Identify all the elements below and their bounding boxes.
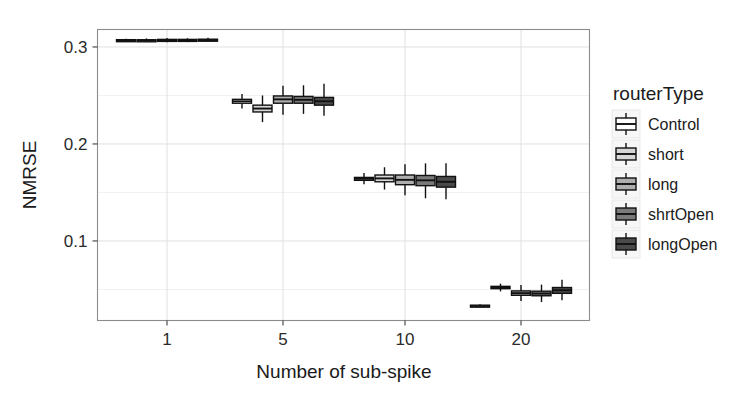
legend-item-label: long	[648, 176, 678, 193]
legend-title: routerType	[613, 83, 704, 104]
legend-item-label: longOpen	[648, 236, 717, 253]
legend-item-label: shrtOpen	[648, 206, 714, 223]
x-tick-label: 5	[278, 330, 287, 349]
y-axis-title: NMRSE	[19, 141, 40, 210]
x-tick-label: 1	[162, 330, 171, 349]
x-tick-label: 20	[512, 330, 531, 349]
x-axis-title: Number of sub-spike	[256, 361, 431, 382]
y-tick-label: 0.1	[64, 232, 88, 251]
boxplot-box	[117, 39, 136, 42]
boxplot-figure: 0.10.20.3 151020 NMRSE Number of sub-spi…	[0, 0, 748, 394]
y-tick-label: 0.3	[64, 38, 88, 57]
boxplot-box	[178, 38, 197, 42]
y-tick-label: 0.2	[64, 135, 88, 154]
legend-item-label: short	[648, 146, 684, 163]
legend-item-label: Control	[648, 116, 700, 133]
boxplot-box	[471, 304, 490, 307]
chart-canvas: 0.10.20.3 151020 NMRSE Number of sub-spi…	[0, 0, 748, 394]
x-tick-label: 10	[396, 330, 415, 349]
